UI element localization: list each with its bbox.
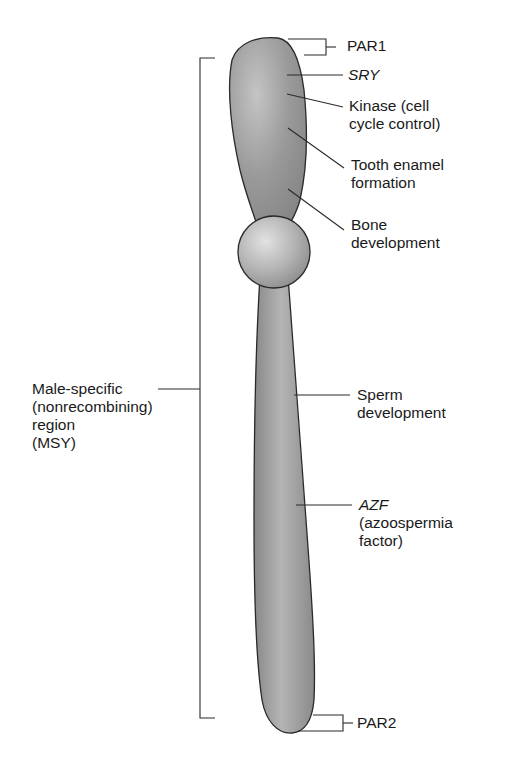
msy-label: Male-specific (nonrecombining) region (M… [32, 380, 153, 452]
par1-label: PAR1 [347, 37, 386, 55]
sperm-development-label: Sperm development [357, 386, 446, 422]
bone-development-label: Bone development [351, 216, 440, 252]
par2-label: PAR2 [357, 714, 396, 732]
azf-description-label: (azoospermia factor) [359, 514, 453, 550]
centromere [238, 216, 310, 288]
sry-label: SRY [348, 66, 379, 84]
tooth-enamel-label: Tooth enamel formation [351, 156, 444, 192]
msy-bracket [200, 58, 215, 718]
kinase-label: Kinase (cell cycle control) [349, 97, 440, 133]
azf-gene-label: AZF [359, 496, 388, 514]
